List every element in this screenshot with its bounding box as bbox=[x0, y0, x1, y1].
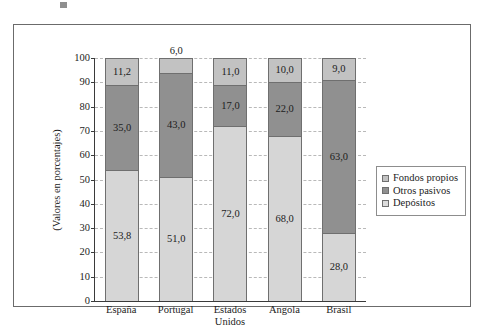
x-axis-label: Portugal bbox=[148, 304, 202, 328]
y-tick-label: 50 bbox=[80, 174, 91, 185]
y-tick-label: 20 bbox=[80, 247, 91, 258]
bar-group[interactable]: 53,835,011,2 bbox=[105, 58, 139, 301]
x-axis-label-line: Unidos bbox=[203, 316, 257, 328]
y-tick-label: 80 bbox=[80, 101, 91, 112]
bar-value-label: 17,0 bbox=[221, 101, 239, 112]
bar-segment[interactable]: 35,0 bbox=[105, 85, 139, 170]
y-tick-label: 0 bbox=[85, 296, 90, 307]
bar-value-label: 9,0 bbox=[332, 64, 345, 75]
bar-group[interactable]: 72,017,011,0 bbox=[213, 58, 247, 301]
y-axis-title: (Valores en porcentajes) bbox=[48, 58, 64, 302]
bar-value-label: 10,0 bbox=[275, 65, 293, 76]
plot-area: 0102030405060708090100 53,835,011,251,04… bbox=[94, 58, 366, 302]
y-tick-label: 70 bbox=[80, 126, 91, 137]
y-tick-label: 60 bbox=[80, 150, 91, 161]
y-tick-mark bbox=[91, 301, 95, 302]
bar-series-container: 53,835,011,251,043,06,072,017,011,068,02… bbox=[95, 58, 366, 301]
bar-segment[interactable]: 68,0 bbox=[268, 136, 302, 301]
bar-segment[interactable]: 22,0 bbox=[268, 82, 302, 135]
bar-value-label: 28,0 bbox=[330, 262, 348, 273]
bar-value-label: 22,0 bbox=[275, 104, 293, 115]
legend-swatch-icon bbox=[382, 200, 389, 207]
x-axis-label-line: Portugal bbox=[148, 304, 202, 316]
figure-frame: (Valores en porcentajes) 010203040506070… bbox=[13, 24, 471, 307]
bar-value-label: 72,0 bbox=[221, 209, 239, 220]
bar-value-label: 6,0 bbox=[170, 46, 183, 57]
bar-segment[interactable]: 72,0 bbox=[213, 126, 247, 301]
y-tick-label: 100 bbox=[74, 53, 90, 64]
legend-item[interactable]: Otros pasivos bbox=[382, 185, 458, 198]
x-axis-labels: EspañaPortugalEstadosUnidosAngolaBrasil bbox=[94, 304, 366, 328]
bar-segment[interactable]: 43,0 bbox=[159, 73, 193, 177]
y-tick-label: 40 bbox=[80, 199, 91, 210]
x-axis-label-line: Brasil bbox=[312, 304, 366, 316]
bar-segment[interactable]: 17,0 bbox=[213, 85, 247, 126]
legend-swatch-icon bbox=[382, 187, 389, 194]
bar-segment[interactable]: 28,0 bbox=[322, 233, 356, 301]
bar-segment[interactable]: 10,0 bbox=[268, 58, 302, 82]
legend-swatch-icon bbox=[382, 175, 389, 182]
bar-group[interactable]: 68,022,010,0 bbox=[268, 58, 302, 301]
bar-segment[interactable]: 9,0 bbox=[322, 58, 356, 80]
y-tick-label: 30 bbox=[80, 223, 91, 234]
bar-segment[interactable]: 63,0 bbox=[322, 80, 356, 233]
bar-group[interactable]: 51,043,06,0 bbox=[159, 58, 193, 301]
bar-value-label: 53,8 bbox=[113, 231, 131, 242]
x-axis-label-line: Estados bbox=[203, 304, 257, 316]
legend-label: Depósitos bbox=[393, 197, 435, 210]
bar-segment[interactable]: 51,0 bbox=[159, 177, 193, 301]
legend-label: Otros pasivos bbox=[393, 185, 450, 198]
bar-segment[interactable]: 6,0 bbox=[159, 58, 193, 73]
bar-value-label: 51,0 bbox=[167, 234, 185, 245]
y-tick-label: 10 bbox=[80, 271, 91, 282]
x-axis-label: EstadosUnidos bbox=[203, 304, 257, 328]
bar-value-label: 68,0 bbox=[275, 214, 293, 225]
bar-segment[interactable]: 53,8 bbox=[105, 170, 139, 301]
legend-item[interactable]: Depósitos bbox=[382, 197, 458, 210]
x-axis-label-line: España bbox=[94, 304, 148, 316]
bar-value-label: 35,0 bbox=[113, 123, 131, 134]
bar-segment[interactable]: 11,0 bbox=[213, 58, 247, 85]
legend-label: Fondos propios bbox=[393, 172, 458, 185]
bar-value-label: 43,0 bbox=[167, 120, 185, 131]
x-axis-label-line: Angola bbox=[257, 304, 311, 316]
y-tick-label: 90 bbox=[80, 77, 91, 88]
x-axis-label: Brasil bbox=[312, 304, 366, 328]
x-axis-label: España bbox=[94, 304, 148, 328]
bar-value-label: 63,0 bbox=[330, 152, 348, 163]
caption-artifact bbox=[60, 2, 67, 8]
bar-group[interactable]: 28,063,09,0 bbox=[322, 58, 356, 301]
bar-value-label: 11,2 bbox=[113, 67, 131, 78]
bar-value-label: 11,0 bbox=[221, 67, 239, 78]
legend-item[interactable]: Fondos propios bbox=[382, 172, 458, 185]
bar-segment[interactable]: 11,2 bbox=[105, 58, 139, 85]
x-axis-label: Angola bbox=[257, 304, 311, 328]
chart-legend: Fondos propiosOtros pasivosDepósitos bbox=[376, 166, 466, 216]
